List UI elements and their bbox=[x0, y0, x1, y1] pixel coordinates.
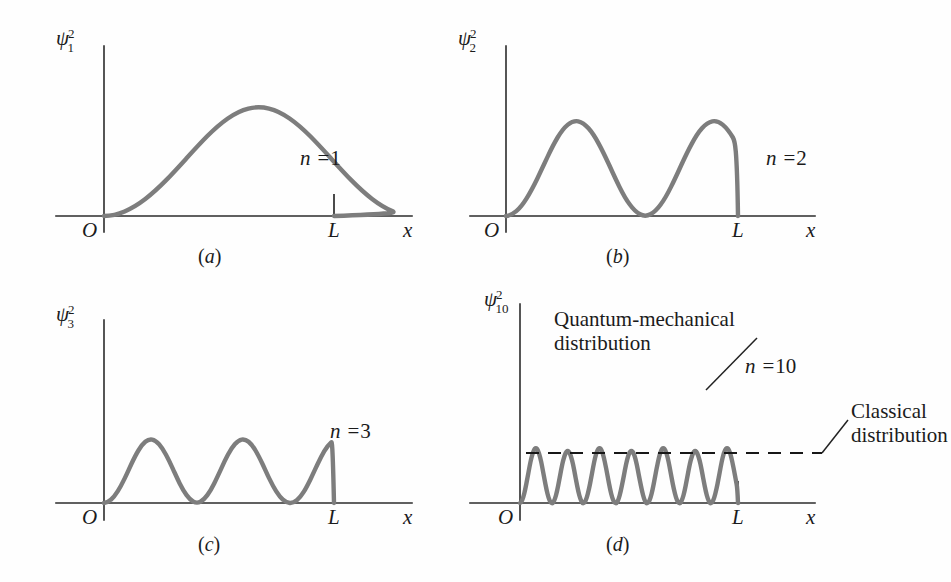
psi-superscript-d: 2 bbox=[496, 287, 503, 302]
caption-letter-c: c bbox=[205, 533, 214, 555]
n-symbol-d: n bbox=[745, 354, 756, 378]
quantum-number-label-a: n=1 bbox=[300, 148, 341, 169]
box-edge-label-c: L bbox=[328, 507, 340, 528]
n-value-a: 1 bbox=[329, 146, 341, 170]
n-value-d: 10 bbox=[774, 354, 796, 378]
figure-canvas: ψ21 O L x n=1 (a) ψ22 O L x n=2 (b) bbox=[0, 0, 951, 582]
x-axis-label-d: x bbox=[806, 507, 815, 528]
wave-curve-n1 bbox=[104, 107, 393, 216]
y-axis-label-d: ψ210 bbox=[484, 287, 517, 313]
n-value-b: 2 bbox=[795, 146, 807, 170]
quantum-annotation-line-1: Quantum-mechanical bbox=[554, 308, 735, 332]
caption-close-c: ) bbox=[214, 533, 221, 555]
psi-superscript-c: 2 bbox=[68, 302, 75, 317]
y-axis-label-a: ψ21 bbox=[56, 26, 82, 52]
panel-b: ψ22 O L x n=2 (b) bbox=[470, 0, 951, 290]
wave-curve-n2 bbox=[506, 121, 738, 216]
classical-distribution-annotation: Classical distribution bbox=[851, 400, 948, 448]
box-edge-label-b: L bbox=[732, 220, 744, 241]
quantum-number-label-c: n=3 bbox=[330, 421, 371, 442]
caption-letter-a: a bbox=[205, 245, 215, 267]
psi-subscript-c: 3 bbox=[68, 316, 75, 331]
panel-caption-a: (a) bbox=[198, 246, 221, 266]
panel-d: ψ210 O L x Quantum-mechanical distributi… bbox=[470, 290, 951, 582]
quantum-number-label-b: n=2 bbox=[766, 148, 807, 169]
psi-superscript-a: 2 bbox=[68, 26, 75, 41]
n-symbol-c: n bbox=[330, 419, 341, 443]
caption-close-d: ) bbox=[623, 533, 630, 555]
origin-label-c: O bbox=[82, 507, 97, 528]
caption-close-b: ) bbox=[623, 245, 630, 267]
panel-caption-d: (d) bbox=[606, 534, 629, 554]
panel-b-plot bbox=[470, 0, 951, 290]
caption-letter-b: b bbox=[613, 245, 623, 267]
origin-label-a: O bbox=[82, 220, 97, 241]
x-axis-label-c: x bbox=[403, 507, 412, 528]
n-value-c: 3 bbox=[359, 419, 371, 443]
panel-c: ψ23 O L x n=3 (c) bbox=[0, 290, 470, 582]
caption-close-a: ) bbox=[215, 245, 222, 267]
caption-open-a: ( bbox=[198, 245, 205, 267]
psi-subscript-b: 2 bbox=[470, 40, 477, 55]
x-axis-label-b: x bbox=[806, 220, 815, 241]
x-axis-label-a: x bbox=[403, 220, 412, 241]
box-edge-label-d: L bbox=[732, 507, 744, 528]
n-symbol-a: n bbox=[300, 146, 311, 170]
psi-subscript-a: 1 bbox=[68, 40, 75, 55]
n-equals-a: = bbox=[311, 146, 330, 170]
caption-open-c: ( bbox=[198, 533, 205, 555]
n-equals-b: = bbox=[777, 146, 796, 170]
psi-superscript-b: 2 bbox=[470, 26, 477, 41]
y-axis-label-b: ψ22 bbox=[458, 26, 484, 52]
classical-annotation-line-1: Classical bbox=[851, 400, 948, 424]
quantum-number-label-d: n=10 bbox=[745, 356, 796, 377]
origin-label-d: O bbox=[498, 507, 513, 528]
quantum-distribution-annotation: Quantum-mechanical distribution bbox=[554, 308, 735, 356]
n-symbol-b: n bbox=[766, 146, 777, 170]
y-axis-label-c: ψ23 bbox=[56, 302, 82, 328]
n-equals-c: = bbox=[341, 419, 360, 443]
panel-c-plot bbox=[0, 290, 470, 582]
caption-letter-d: d bbox=[613, 533, 623, 555]
classical-annotation-leader bbox=[822, 420, 848, 453]
wave-curve-n3 bbox=[104, 439, 334, 503]
box-edge-label-a: L bbox=[328, 220, 340, 241]
caption-open-d: ( bbox=[606, 533, 613, 555]
panel-caption-b: (b) bbox=[606, 246, 629, 266]
n-equals-d: = bbox=[756, 354, 775, 378]
origin-label-b: O bbox=[484, 220, 499, 241]
panel-caption-c: (c) bbox=[198, 534, 220, 554]
psi-subscript-d: 10 bbox=[496, 301, 509, 316]
wave-curve-n10 bbox=[520, 448, 738, 503]
classical-annotation-line-2: distribution bbox=[851, 424, 948, 448]
quantum-annotation-line-2: distribution bbox=[554, 332, 735, 356]
caption-open-b: ( bbox=[606, 245, 613, 267]
panel-a: ψ21 O L x n=1 (a) bbox=[0, 0, 470, 290]
